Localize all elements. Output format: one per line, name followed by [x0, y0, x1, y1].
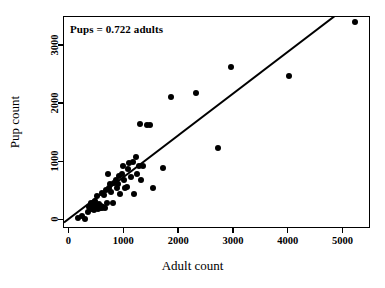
y-axis-title-text: Pup count: [7, 96, 23, 148]
scatter-chart-figure: Pup count Adult count Pups = 0.722 adult…: [0, 0, 385, 288]
regression-equation-annotation: Pups = 0.722 adults: [70, 23, 163, 35]
data-point: [101, 192, 107, 198]
x-axis-tick-label: 3000: [222, 235, 243, 246]
data-point: [128, 174, 134, 180]
x-axis-tick: [287, 228, 288, 233]
y-axis-title: Pup count: [4, 0, 26, 244]
x-axis-tick-label: 5000: [332, 235, 353, 246]
x-axis-tick-label: 1000: [113, 235, 134, 246]
data-point: [110, 200, 116, 206]
data-point: [105, 171, 111, 177]
data-point: [228, 64, 234, 70]
data-point: [150, 185, 156, 191]
plot-frame: [63, 16, 370, 228]
data-point: [138, 177, 144, 183]
data-point: [82, 216, 88, 222]
data-point: [137, 121, 143, 127]
data-point: [168, 94, 174, 100]
data-point: [130, 159, 136, 165]
x-axis-tick-label: 2000: [168, 235, 189, 246]
x-axis-tick: [342, 228, 343, 233]
data-point: [124, 184, 130, 190]
x-axis-tick-label: 0: [66, 235, 71, 246]
x-axis-tick: [123, 228, 124, 233]
data-point: [286, 73, 292, 79]
data-point: [134, 171, 140, 177]
y-axis-tick-label: 0: [49, 219, 60, 224]
y-axis-tick-label: 1000: [49, 161, 60, 182]
data-point: [104, 200, 110, 206]
data-point: [193, 90, 199, 96]
x-axis-title: Adult count: [0, 258, 385, 274]
data-point: [108, 189, 114, 195]
data-point: [125, 166, 131, 172]
data-point: [140, 163, 146, 169]
data-point: [121, 177, 127, 183]
x-axis-tick-label: 4000: [277, 235, 298, 246]
data-point: [215, 145, 221, 151]
data-point: [117, 191, 123, 197]
data-point: [133, 154, 139, 160]
x-axis-tick: [68, 228, 69, 233]
x-axis-tick: [232, 228, 233, 233]
data-point: [115, 181, 121, 187]
x-axis-tick: [177, 228, 178, 233]
data-point: [147, 122, 153, 128]
data-point: [131, 191, 137, 197]
plot-area: [64, 17, 369, 227]
regression-line: [64, 17, 369, 227]
y-axis-tick-label: 3000: [49, 45, 60, 66]
data-point: [352, 19, 358, 25]
y-axis-tick-label: 2000: [49, 103, 60, 124]
data-point: [160, 165, 166, 171]
